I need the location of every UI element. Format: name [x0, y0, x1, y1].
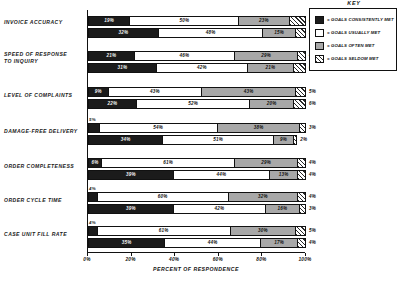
- segment-value: 35%: [122, 241, 132, 246]
- bar-segment-consistent[interactable]: 22%: [88, 99, 136, 109]
- segment-value: 50%: [180, 19, 190, 24]
- bar-segment-usually[interactable]: 44%: [164, 238, 260, 248]
- bar-segment-consistent[interactable]: 35%: [88, 238, 164, 248]
- segment-value: 60%: [158, 195, 168, 200]
- bar-segment-consistent[interactable]: [88, 226, 97, 236]
- bar-segment-usually[interactable]: 52%: [136, 99, 249, 109]
- bar-segment-consistent[interactable]: 9%: [88, 87, 108, 97]
- bar-segment-consistent[interactable]: 32%: [88, 28, 158, 38]
- x-axis-title: PERCENT OF RESPONDENCE: [87, 266, 305, 272]
- bar-segment-often[interactable]: 43%: [201, 87, 295, 97]
- bar-segment-often[interactable]: 38%: [217, 123, 300, 133]
- segment-value: 4%: [89, 187, 96, 191]
- bar-segment-seldom[interactable]: [299, 204, 306, 214]
- bar-segment-seldom[interactable]: [289, 16, 306, 26]
- bar-segment-often[interactable]: 29%: [234, 158, 297, 168]
- legend-item[interactable]: = GOALS SELDOM MET: [315, 54, 379, 63]
- bar-segment-consistent[interactable]: 39%: [88, 204, 173, 214]
- segment-value-outside: 5%: [309, 87, 316, 97]
- stacked-bar[interactable]: 61%30%: [88, 226, 306, 236]
- category-label: ORDER COMPLETENESS: [0, 163, 84, 170]
- plot-area: 8%5%19%50%23%32%48%15%4%6%21%46%29%31%42…: [87, 10, 306, 252]
- stacked-bar[interactable]: 32%48%15%: [88, 28, 306, 38]
- bar-segment-consistent[interactable]: 39%: [88, 170, 173, 180]
- bar-segment-often[interactable]: 23%: [238, 16, 288, 26]
- bar-segment-often[interactable]: 9%: [273, 135, 293, 145]
- bar-segment-often[interactable]: 29%: [234, 51, 297, 61]
- bar-segment-usually[interactable]: 51%: [162, 135, 273, 145]
- bar-segment-seldom[interactable]: [297, 158, 306, 168]
- segment-value-outside: 3%: [309, 204, 316, 214]
- segment-value-outside: 3%: [309, 123, 316, 133]
- segment-value: 16%: [278, 207, 288, 212]
- bar-segment-seldom[interactable]: [299, 123, 306, 133]
- bar-segment-often[interactable]: 21%: [247, 63, 293, 73]
- bar-segment-usually[interactable]: 61%: [101, 158, 234, 168]
- bar-segment-consistent[interactable]: 21%: [88, 51, 134, 61]
- bar-segment-seldom[interactable]: [293, 135, 297, 145]
- bar-segment-consistent[interactable]: [88, 123, 99, 133]
- bar-segment-usually[interactable]: 46%: [134, 51, 234, 61]
- bar-segment-seldom[interactable]: [295, 28, 306, 38]
- segment-value-outside: 4%: [309, 238, 316, 248]
- stacked-bar[interactable]: 54%38%: [88, 123, 306, 133]
- segment-value: 42%: [197, 66, 207, 71]
- stacked-bar[interactable]: 39%42%16%: [88, 204, 306, 214]
- segment-value: 48%: [206, 31, 216, 36]
- stacked-bar[interactable]: 22%52%20%: [88, 99, 306, 109]
- bar-segment-usually[interactable]: 50%: [129, 16, 238, 26]
- segment-value: 5%: [89, 118, 96, 122]
- legend-item[interactable]: = GOALS USUALLY MET: [315, 28, 380, 37]
- bar-segment-often[interactable]: 30%: [230, 226, 295, 236]
- bar-segment-consistent[interactable]: 31%: [88, 63, 156, 73]
- bar-segment-usually[interactable]: 48%: [158, 28, 263, 38]
- segment-value: 21%: [266, 66, 276, 71]
- segment-value: 42%: [214, 207, 224, 212]
- segment-value: 22%: [108, 102, 118, 107]
- stacked-bar[interactable]: 9%43%43%: [88, 87, 306, 97]
- bar-segment-seldom[interactable]: [297, 238, 306, 248]
- bar-segment-usually[interactable]: 54%: [99, 123, 217, 133]
- bar-segment-seldom[interactable]: [295, 226, 306, 236]
- bar-segment-seldom[interactable]: [297, 192, 306, 202]
- stacked-bar[interactable]: 39%44%13%: [88, 170, 306, 180]
- bar-segment-seldom[interactable]: [295, 87, 306, 97]
- bar-segment-often[interactable]: 32%: [228, 192, 298, 202]
- stacked-bar[interactable]: 19%50%23%: [88, 16, 306, 26]
- bar-segment-seldom[interactable]: [293, 63, 306, 73]
- bar-segment-consistent[interactable]: 19%: [88, 16, 129, 26]
- segment-value: 46%: [180, 54, 190, 59]
- bar-segment-usually[interactable]: 44%: [173, 170, 269, 180]
- bar-segment-often[interactable]: 17%: [260, 238, 297, 248]
- stacked-bar[interactable]: 60%32%: [88, 192, 306, 202]
- bar-segment-usually[interactable]: 60%: [97, 192, 228, 202]
- stacked-bar[interactable]: 35%44%17%: [88, 238, 306, 248]
- bar-segment-consistent[interactable]: 34%: [88, 135, 162, 145]
- bar-segment-consistent[interactable]: [88, 192, 97, 202]
- bar-segment-consistent[interactable]: 6%: [88, 158, 101, 168]
- bar-segment-usually[interactable]: 42%: [173, 204, 265, 214]
- bar-segment-usually[interactable]: 43%: [108, 87, 202, 97]
- segment-value: 4%: [89, 221, 96, 225]
- bar-segment-often[interactable]: 20%: [249, 99, 293, 109]
- bar-segment-often[interactable]: 15%: [262, 28, 295, 38]
- chart-root: INVOICE ACCURACYSPEED OF RESPONSETO INQU…: [0, 0, 403, 292]
- legend: KEY = GOALS CONSISTENTLY MET= GOALS USUA…: [309, 8, 397, 71]
- bar-segment-often[interactable]: 13%: [269, 170, 297, 180]
- legend-item[interactable]: = GOALS CONSISTENTLY MET: [315, 15, 394, 24]
- segment-value: 17%: [274, 241, 284, 246]
- legend-swatch-seldom: [315, 55, 324, 63]
- bar-segment-usually[interactable]: 61%: [97, 226, 230, 236]
- stacked-bar[interactable]: 21%46%29%: [88, 51, 306, 61]
- segment-value: 13%: [279, 173, 289, 178]
- stacked-bar[interactable]: 34%51%9%: [88, 135, 297, 145]
- stacked-bar[interactable]: 31%42%21%: [88, 63, 306, 73]
- stacked-bar[interactable]: 6%61%29%: [88, 158, 306, 168]
- bar-segment-seldom[interactable]: [297, 51, 306, 61]
- bar-segment-often[interactable]: 16%: [265, 204, 300, 214]
- bar-segment-usually[interactable]: 42%: [156, 63, 248, 73]
- bar-segment-seldom[interactable]: [293, 99, 306, 109]
- bar-segment-seldom[interactable]: [297, 170, 306, 180]
- legend-item[interactable]: = GOALS OFTEN MET: [315, 41, 375, 50]
- category-label: LEVEL OF COMPLAINTS: [0, 92, 84, 99]
